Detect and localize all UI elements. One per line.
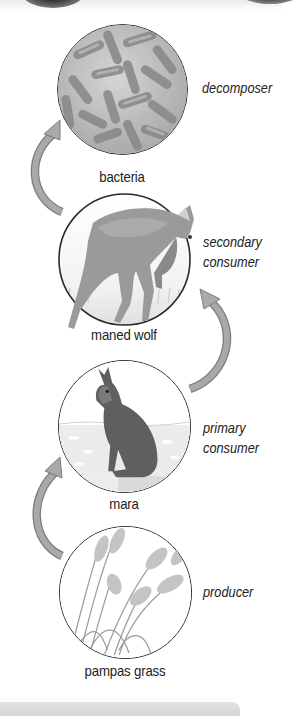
node-name-bacteria: bacteria bbox=[69, 168, 175, 185]
bottom-decorative-bar bbox=[0, 702, 240, 716]
node-role-decomposer: decomposer bbox=[202, 78, 272, 98]
bacteria-illustration bbox=[57, 24, 188, 155]
pampas-grass-illustration bbox=[59, 526, 192, 659]
role-line-consumer: consumer bbox=[203, 438, 259, 458]
role-line-consumer: consumer bbox=[203, 252, 262, 272]
node-role-primary-consumer: primary consumer bbox=[203, 418, 259, 458]
maned-wolf-illustration bbox=[58, 193, 191, 326]
node-name-mara: mara bbox=[69, 495, 178, 512]
node-name-maned-wolf: maned wolf bbox=[69, 326, 178, 343]
node-role-producer: producer bbox=[203, 582, 253, 602]
role-line-secondary: secondary bbox=[203, 232, 262, 252]
node-name-pampas-grass: pampas grass bbox=[68, 662, 182, 679]
arrow-mara-to-wolf-icon bbox=[184, 285, 244, 395]
mara-illustration bbox=[58, 360, 191, 493]
role-line-primary: primary bbox=[203, 418, 259, 438]
arrow-grass-to-mara-icon bbox=[20, 454, 70, 560]
node-role-secondary-consumer: secondary consumer bbox=[203, 232, 262, 272]
